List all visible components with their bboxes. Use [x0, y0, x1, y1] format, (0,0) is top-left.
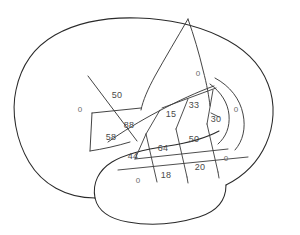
region-label-frontal-zero: 0 — [78, 106, 83, 114]
region-label-inferior-temporal: 18 — [161, 171, 172, 180]
grid-bottom-tick-1 — [187, 177, 188, 183]
central-sulcus — [141, 19, 188, 110]
region-label-superior-temporal: 64 — [158, 144, 169, 153]
temporal-lobe-inferior-edge — [95, 185, 226, 224]
region-label-mid-temporal: 50 — [189, 135, 200, 144]
region-label-inferior-frontal: 58 — [106, 133, 117, 142]
region-label-precentral: 88 — [124, 121, 135, 130]
frontal-sulcus-vertical — [90, 113, 92, 151]
region-label-pars-opercularis: 44 — [128, 152, 139, 161]
grid-col-2 — [176, 129, 187, 177]
inferior-frontal-boundary — [90, 142, 130, 151]
region-label-temporal-zero: 0 — [224, 155, 229, 163]
grid-col-3 — [207, 124, 218, 172]
brain-diagram: 0 50 88 58 44 15 33 0 30 0 64 50 18 20 0… — [0, 0, 300, 235]
region-label-superior-frontal: 50 — [112, 91, 123, 100]
grid-upper-col-2 — [176, 99, 188, 129]
region-label-occipital-zero: 0 — [234, 106, 239, 114]
grid-upper-col-1 — [146, 110, 160, 134]
region-label-posterior-temporal: 20 — [195, 163, 206, 172]
region-label-supramarginal: 33 — [189, 101, 200, 110]
region-label-postcentral: 15 — [166, 110, 177, 119]
region-label-parietal-zero: 0 — [196, 70, 201, 78]
central-sulcus-posterior — [188, 19, 210, 106]
region-label-basal-zero: 0 — [136, 177, 141, 185]
grid-bottom-tick-2 — [218, 172, 219, 178]
brain-outline-svg — [0, 0, 300, 235]
frontal-sulcus-horizontal — [92, 108, 141, 113]
region-label-angular: 30 — [211, 115, 222, 124]
